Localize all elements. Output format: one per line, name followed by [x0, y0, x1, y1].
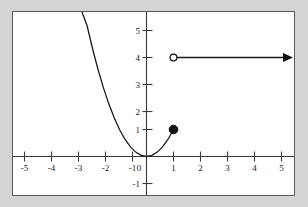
- y-tick-label--1: -1: [133, 179, 141, 189]
- plot-frame: -5 -4 -3 -2 -1 0 1 2 3 4 5 5 4 3 2 1 -1: [12, 11, 295, 196]
- arrow-right-icon: [283, 53, 293, 62]
- y-tick-label-5: 5: [136, 26, 141, 36]
- x-tick-label-2: 2: [198, 163, 203, 173]
- x-tick-label--1: -1: [129, 163, 137, 173]
- y-tick-label-2: 2: [136, 107, 141, 117]
- graph-screenshot: -5 -4 -3 -2 -1 0 1 2 3 4 5 5 4 3 2 1 -1: [0, 0, 308, 207]
- x-tick-label-4: 4: [252, 163, 257, 173]
- x-tick-label--2: -2: [102, 163, 110, 173]
- y-tick-label-3: 3: [136, 80, 141, 90]
- x-tick-label--5: -5: [21, 163, 29, 173]
- x-tick-label--4: -4: [48, 163, 56, 173]
- closed-point-marker: [169, 125, 178, 134]
- x-tick-label--3: -3: [75, 163, 83, 173]
- y-tick-label-1: 1: [136, 125, 141, 135]
- parabola-curve: [82, 12, 174, 157]
- origin-label: 0: [137, 163, 142, 173]
- y-tick-label-4: 4: [136, 53, 141, 63]
- x-tick-label-1: 1: [171, 163, 176, 173]
- y-axis-ticks: [143, 31, 153, 184]
- x-tick-label-5: 5: [279, 163, 284, 173]
- x-tick-label-3: 3: [225, 163, 230, 173]
- function-graph: -5 -4 -3 -2 -1 0 1 2 3 4 5 5 4 3 2 1 -1: [13, 12, 294, 195]
- open-point-marker: [170, 54, 177, 61]
